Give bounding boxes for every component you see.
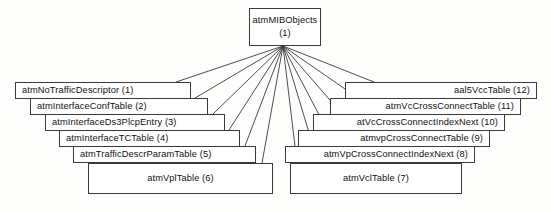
node-atmVplTable[interactable]: atmVplTable (6): [88, 163, 273, 194]
node-atmVcCrossConnectTable-label: atmVcCrossConnectTable (11): [386, 101, 514, 112]
node-atmVpCrossConnectIndexNext-label: atmVpCrossConnectIndexNext (8): [324, 149, 468, 160]
node-atmInterfaceTCTable[interactable]: atmInterfaceTCTable (4): [59, 130, 240, 147]
node-atmInterfaceDs3PlcpEntry[interactable]: atmInterfaceDs3PlcpEntry (3): [45, 114, 225, 131]
node-atmvpCrossConnectTable-label: atmvpCrossConnectTable (9): [360, 133, 483, 144]
node-atmTrafficDescrParamTable[interactable]: atmTrafficDescrParamTable (5): [73, 146, 256, 163]
node-atmvpCrossConnectTable[interactable]: atmvpCrossConnectTable (9): [298, 130, 490, 147]
node-atmVclTable-label: atmVclTable (7): [343, 173, 409, 184]
node-atmInterfaceTCTable-label: atmInterfaceTCTable (4): [66, 133, 168, 144]
node-aal5VccTable[interactable]: aal5VccTable (12): [345, 82, 537, 99]
diagram-canvas: atmMIBObjects (1) atmNoTrafficDescriptor…: [0, 0, 551, 212]
edge-to-atmNoTrafficDescriptor: [176, 46, 283, 82]
node-atmNoTrafficDescriptor-label: atmNoTrafficDescriptor (1): [22, 85, 133, 96]
node-aal5VccTable-label: aal5VccTable (12): [454, 85, 530, 96]
node-atmNoTrafficDescriptor[interactable]: atmNoTrafficDescriptor (1): [15, 82, 191, 99]
node-atmTrafficDescrParamTable-label: atmTrafficDescrParamTable (5): [80, 149, 211, 160]
node-atVcCrossConnectIndexNext[interactable]: atVcCrossConnectIndexNext (10): [313, 114, 505, 131]
node-atVcCrossConnectIndexNext-label: atVcCrossConnectIndexNext (10): [357, 117, 498, 128]
edge-to-aal5VccTable: [283, 46, 374, 82]
node-atmVplTable-label: atmVplTable (6): [147, 173, 214, 184]
node-atmMIBObjects-name: atmMIBObjects: [253, 14, 318, 27]
edge-to-atmInterfaceConfTable: [195, 46, 283, 98]
node-atmVpCrossConnectIndexNext[interactable]: atmVpCrossConnectIndexNext (8): [285, 146, 475, 163]
node-atmVcCrossConnectTable[interactable]: atmVcCrossConnectTable (11): [330, 98, 521, 115]
node-atmMIBObjects[interactable]: atmMIBObjects (1): [249, 8, 321, 46]
node-atmInterfaceConfTable-label: atmInterfaceConfTable (2): [37, 101, 147, 112]
node-atmMIBObjects-index: (1): [279, 27, 291, 40]
node-atmVclTable[interactable]: atmVclTable (7): [290, 163, 462, 194]
node-atmInterfaceConfTable[interactable]: atmInterfaceConfTable (2): [30, 98, 208, 115]
node-atmInterfaceDs3PlcpEntry-label: atmInterfaceDs3PlcpEntry (3): [52, 117, 177, 128]
